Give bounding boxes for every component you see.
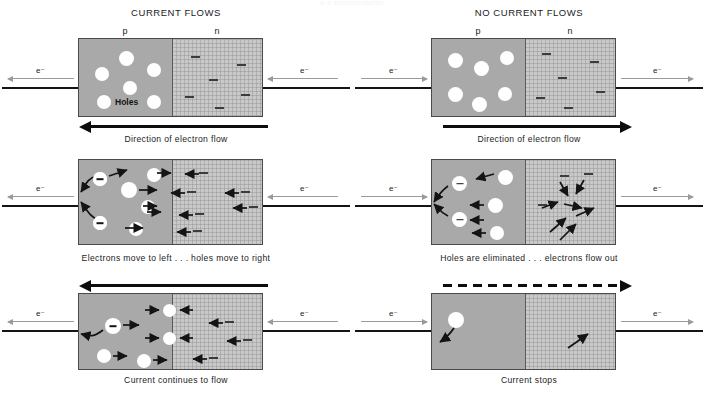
direction-bar-right-r3 bbox=[443, 284, 621, 287]
direction-bar-left-r1 bbox=[90, 125, 268, 128]
gray-arrow-right-r2-out bbox=[621, 196, 693, 197]
hole bbox=[474, 61, 489, 76]
electron-mark bbox=[193, 230, 202, 232]
electron-mark bbox=[237, 64, 246, 66]
wire-right-r2-out bbox=[615, 205, 703, 207]
column-title-left: CURRENT FLOWS bbox=[0, 7, 352, 18]
junction-left-r2 bbox=[172, 160, 173, 244]
junction-left-r1 bbox=[172, 39, 173, 116]
diode-right-r2 bbox=[431, 159, 616, 245]
electron-mark bbox=[584, 173, 593, 175]
gray-arrow-left-r3-in bbox=[8, 321, 74, 322]
electron-mark bbox=[187, 191, 196, 193]
gray-arrow-right-r1-in bbox=[361, 78, 427, 79]
label-p-left-r1: p bbox=[110, 26, 140, 36]
hole bbox=[488, 198, 503, 213]
column-current-flows: CURRENT FLOWS p n e⁻ e⁻ Holes bbox=[0, 0, 352, 399]
terminal-label-left-r3: e⁻ bbox=[36, 309, 45, 318]
hole bbox=[141, 200, 155, 214]
gray-arrow-left-r1-in bbox=[8, 78, 74, 79]
electron-mark bbox=[225, 321, 234, 323]
junction-right-r1 bbox=[525, 39, 526, 116]
hole bbox=[97, 95, 111, 109]
electron-mark bbox=[191, 56, 200, 58]
p-region-right-r3 bbox=[432, 294, 525, 369]
diode-left-r1: Holes bbox=[78, 38, 263, 117]
electron-mark bbox=[558, 77, 567, 79]
wire-right-r1-in bbox=[355, 87, 433, 89]
hole bbox=[97, 349, 111, 363]
panel-left-row3: e⁻ e⁻ bbox=[0, 275, 352, 399]
hole-at-junction bbox=[163, 332, 176, 345]
hole-with-electron bbox=[105, 318, 121, 334]
terminal-label-left-r2: e⁻ bbox=[36, 184, 45, 193]
n-region-right-r3 bbox=[525, 294, 615, 369]
gray-arrow-right-r3-out bbox=[621, 321, 693, 322]
gray-arrow-right-r3-in bbox=[361, 321, 427, 322]
electron-mark bbox=[185, 96, 194, 98]
electron-mark bbox=[241, 94, 250, 96]
caption-left-r1: Direction of electron flow bbox=[0, 134, 352, 144]
n-region-right-r2 bbox=[525, 160, 615, 244]
holes-label-left-r1: Holes bbox=[115, 97, 138, 107]
electron-mark bbox=[596, 91, 605, 93]
electron-mark bbox=[209, 79, 218, 81]
hole bbox=[129, 222, 143, 236]
column-no-current-flows: NO CURRENT FLOWS p n e⁻ e⁻ bbox=[353, 0, 705, 399]
hole bbox=[448, 87, 463, 102]
electron-mark bbox=[560, 175, 569, 177]
hole-at-junction bbox=[163, 304, 176, 317]
diode-left-r2 bbox=[78, 159, 263, 245]
panel-left-row2: e⁻ e⁻ bbox=[0, 157, 352, 275]
wire-right-r3-in bbox=[355, 330, 433, 332]
label-n-left-r1: n bbox=[202, 26, 232, 36]
wire-right-r3-out bbox=[615, 330, 703, 332]
wire-left-r2-out bbox=[262, 205, 350, 207]
panel-right-row3: e⁻ e⁻ Current stops bbox=[353, 275, 705, 399]
electron-mark bbox=[195, 213, 204, 215]
terminal-label-left-r1: e⁻ bbox=[36, 66, 45, 75]
wire-left-r2-in bbox=[2, 205, 80, 207]
electron-mark bbox=[243, 339, 252, 341]
wire-right-r1-out bbox=[615, 87, 703, 89]
terminal-label-right-r2: e⁻ bbox=[653, 184, 662, 193]
hole bbox=[123, 81, 137, 95]
caption-right-r2: Holes are eliminated . . . electrons flo… bbox=[353, 253, 705, 263]
electron-mark bbox=[209, 357, 218, 359]
caption-left-r3: Current continues to flow bbox=[0, 375, 352, 385]
hole bbox=[147, 63, 161, 77]
hole bbox=[147, 168, 161, 182]
gray-arrow-left-r2-in bbox=[8, 196, 74, 197]
panel-right-row1: p n e⁻ e⁻ Direction of electron flow bbox=[353, 22, 705, 157]
hole bbox=[500, 51, 514, 65]
direction-bar-right-r1 bbox=[443, 125, 621, 128]
terminal-label-right-r3: e⁻ bbox=[300, 309, 309, 318]
wire-right-r2-in bbox=[355, 205, 433, 207]
hole-with-electron bbox=[93, 216, 107, 230]
hole bbox=[498, 170, 513, 185]
gray-arrow-right-r2-in bbox=[361, 196, 427, 197]
wire-left-r1-in bbox=[2, 87, 80, 89]
hole bbox=[448, 312, 464, 328]
electron-mark bbox=[564, 107, 573, 109]
p-region-left-r3 bbox=[79, 294, 172, 369]
panel-right-row2: e⁻ e⁻ bbox=[353, 157, 705, 275]
terminal-label-right-r3: e⁻ bbox=[653, 309, 662, 318]
diode-left-r3 bbox=[78, 293, 263, 370]
hole bbox=[498, 87, 512, 101]
terminal-label-left-r2: e⁻ bbox=[389, 184, 398, 193]
label-n-right-r1: n bbox=[555, 26, 585, 36]
n-region-left-r1 bbox=[172, 39, 262, 116]
electron-mark bbox=[249, 206, 258, 208]
diode-right-r1 bbox=[431, 38, 616, 117]
electron-mark bbox=[590, 61, 599, 63]
terminal-label-left-r1: e⁻ bbox=[389, 66, 398, 75]
n-region-left-r2 bbox=[172, 160, 262, 244]
hole bbox=[119, 51, 134, 66]
hole bbox=[137, 354, 151, 368]
hole bbox=[95, 67, 109, 81]
label-p-right-r1: p bbox=[463, 26, 493, 36]
gray-arrow-left-r1-out bbox=[268, 78, 338, 79]
gray-arrow-right-r1-out bbox=[621, 78, 693, 79]
direction-bar-left-r3 bbox=[90, 284, 268, 287]
